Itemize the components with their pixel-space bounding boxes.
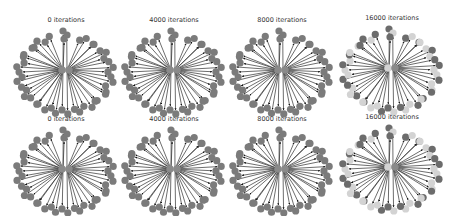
graph-node — [402, 134, 409, 141]
panel-title: 0 iterations — [9, 115, 123, 123]
graph-node — [156, 204, 163, 211]
hub-node — [391, 163, 399, 171]
graph-node — [234, 183, 241, 190]
graph-node — [213, 157, 220, 164]
graph-node — [128, 51, 135, 58]
graph-node — [234, 84, 241, 91]
graph-node — [321, 157, 328, 164]
graph-node — [33, 200, 40, 207]
hub-node — [65, 66, 73, 74]
star-graph — [335, 23, 449, 114]
graph-node — [431, 155, 438, 162]
graph-node — [48, 105, 55, 112]
graph-node — [210, 82, 217, 89]
graph-node — [386, 33, 393, 40]
graph-node — [138, 44, 145, 51]
hub-node — [58, 165, 66, 173]
graph-node — [418, 96, 425, 103]
graph-node — [236, 51, 243, 58]
graph-node — [304, 104, 311, 111]
graph-node — [168, 35, 175, 42]
graph-node — [249, 101, 256, 108]
graph-node — [292, 136, 299, 143]
graph-node — [76, 37, 83, 44]
graph-node — [249, 137, 256, 144]
nodes — [13, 27, 117, 117]
graph-panel: 8000 iterations — [225, 115, 339, 215]
star-graph — [117, 25, 231, 116]
graph-node — [102, 91, 109, 98]
graph-node — [428, 179, 435, 186]
graph-node — [356, 42, 363, 49]
graph-node — [76, 136, 83, 143]
graph-node — [156, 105, 163, 112]
graph-node — [262, 132, 269, 139]
graph-node — [397, 104, 404, 111]
graph-node — [200, 197, 207, 204]
graph-node — [217, 79, 224, 86]
graph-node — [414, 201, 421, 208]
hub-node — [391, 64, 399, 72]
hub-node — [384, 64, 392, 72]
graph-node — [213, 58, 220, 65]
panel-title: 8000 iterations — [225, 115, 339, 123]
graph-node — [13, 63, 20, 70]
graph-node — [126, 84, 133, 91]
graph-node — [299, 134, 306, 141]
graph-node — [149, 205, 156, 212]
graph-node — [92, 98, 99, 105]
graph-node — [384, 203, 391, 210]
graph-node — [90, 41, 97, 48]
graph-node — [166, 205, 173, 212]
graph-node — [60, 134, 67, 141]
graph-node — [431, 56, 438, 63]
graph-node — [30, 143, 37, 150]
panel-title: 0 iterations — [9, 16, 123, 24]
graph-node — [353, 191, 360, 198]
graph-node — [359, 135, 366, 142]
graph-node — [18, 84, 25, 91]
nodes — [229, 126, 333, 216]
graph-node — [102, 82, 109, 89]
graph-node — [236, 150, 243, 157]
graph-node — [339, 61, 346, 68]
graph-node — [198, 140, 205, 147]
graph-node — [344, 82, 351, 89]
graph-node — [409, 33, 416, 40]
graph-node — [249, 200, 256, 207]
graph-node — [217, 178, 224, 185]
nodes — [121, 126, 225, 216]
graph-node — [205, 146, 212, 153]
graph-node — [71, 205, 78, 212]
graph-node — [374, 202, 381, 209]
graph-node — [374, 103, 381, 110]
graph-node — [321, 58, 328, 65]
graph-node — [308, 98, 315, 105]
hub-node — [173, 165, 181, 173]
graph-node — [344, 181, 351, 188]
nodes — [229, 27, 333, 117]
graph-node — [196, 104, 203, 111]
graph-node — [179, 205, 186, 212]
star-graph — [117, 124, 231, 215]
graph-node — [21, 192, 28, 199]
nodes — [339, 25, 443, 115]
graph-node — [149, 106, 156, 113]
graph-node — [347, 91, 354, 98]
graph-node — [428, 188, 435, 195]
graph-node — [211, 49, 218, 56]
graph-node — [200, 98, 207, 105]
graph-node — [105, 58, 112, 65]
graph-node — [257, 205, 264, 212]
graph-node — [46, 132, 53, 139]
hub-node — [384, 163, 392, 171]
graph-node — [154, 132, 161, 139]
graph-node — [128, 150, 135, 157]
graph-node — [313, 47, 320, 54]
graph-node — [237, 192, 244, 199]
graph-node — [367, 203, 374, 210]
graph-node — [423, 45, 430, 52]
graph-panel: 0 iterations — [9, 115, 123, 215]
graph-node — [276, 35, 283, 42]
graph-node — [210, 91, 217, 98]
